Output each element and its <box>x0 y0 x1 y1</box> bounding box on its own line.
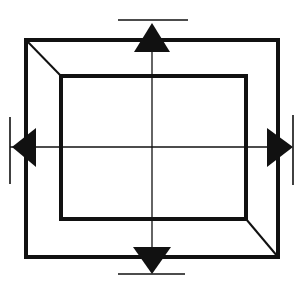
diagonal-top-left <box>26 40 61 76</box>
arrow-up-icon <box>134 23 170 52</box>
diagram-canvas: Perspective frame with inner rectangle, … <box>0 0 297 289</box>
diagonal-bottom-right <box>246 219 278 257</box>
frame-diagram <box>0 0 297 289</box>
arrow-down-icon <box>133 247 171 274</box>
